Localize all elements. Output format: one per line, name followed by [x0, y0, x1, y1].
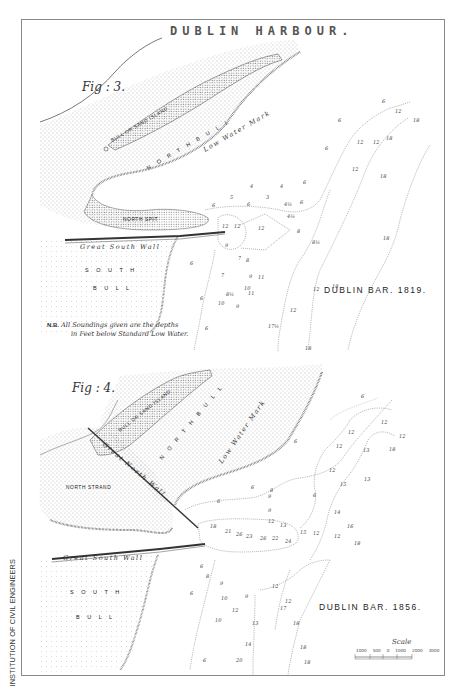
svg-text:10: 10 — [215, 617, 222, 623]
svg-text:20: 20 — [235, 657, 243, 663]
scale-title: Scale — [392, 638, 411, 646]
svg-text:8½: 8½ — [226, 291, 234, 297]
note-line-1: All Soundings given are the depths — [61, 321, 178, 329]
scale-tick: 2000 — [412, 648, 423, 653]
svg-text:17½: 17½ — [268, 323, 279, 329]
svg-text:13: 13 — [363, 447, 369, 453]
svg-text:12: 12 — [336, 443, 342, 449]
svg-text:11: 11 — [258, 274, 264, 280]
svg-text:18: 18 — [380, 173, 386, 179]
svg-text:18: 18 — [386, 135, 392, 141]
svg-text:12: 12 — [373, 139, 379, 145]
svg-text:6: 6 — [361, 393, 365, 399]
svg-text:12: 12 — [357, 139, 363, 145]
svg-text:18: 18 — [383, 235, 389, 241]
svg-text:6: 6 — [190, 260, 194, 266]
svg-text:12: 12 — [348, 429, 354, 435]
svg-text:15: 15 — [340, 481, 346, 487]
image-credit: INSTITUTION OF CIVIL ENGINEERS — [8, 547, 17, 687]
svg-text:6: 6 — [382, 98, 386, 104]
scale-tick: 0 — [387, 648, 390, 653]
label-south: S O U T H — [85, 267, 137, 273]
svg-text:6: 6 — [205, 325, 209, 331]
label-great-south-wall: Great South Wall — [80, 243, 160, 251]
svg-text:9: 9 — [245, 593, 249, 599]
svg-text:6: 6 — [247, 201, 251, 207]
svg-text:10: 10 — [221, 595, 228, 601]
label-bull-1856: B U L L — [76, 614, 115, 620]
page-title: DUBLIN HARBOUR. — [170, 24, 410, 38]
svg-text:12: 12 — [234, 223, 240, 229]
label-south-1856: S O U T H — [70, 589, 122, 595]
svg-text:6: 6 — [300, 199, 304, 205]
svg-text:11: 11 — [248, 290, 254, 296]
svg-text:7: 7 — [221, 272, 225, 278]
scale-tick: 500 — [373, 648, 381, 653]
svg-text:9: 9 — [220, 580, 224, 586]
svg-text:12: 12 — [334, 533, 340, 539]
note-line-2: in Feet below Standard Low Water. — [47, 330, 188, 338]
figure-4-label: Fig : 4. — [72, 381, 115, 395]
svg-text:4½: 4½ — [283, 201, 292, 207]
svg-text:6: 6 — [190, 590, 194, 596]
svg-text:12: 12 — [399, 433, 405, 439]
svg-text:18: 18 — [305, 345, 311, 351]
svg-text:4½: 4½ — [286, 213, 295, 219]
svg-text:6: 6 — [251, 484, 255, 490]
svg-text:6: 6 — [294, 438, 298, 444]
svg-text:6: 6 — [325, 145, 329, 151]
svg-text:18: 18 — [389, 446, 395, 452]
label-great-south-wall-1856: Great South Wall — [63, 554, 143, 562]
svg-text:5: 5 — [230, 194, 233, 200]
svg-text:6: 6 — [203, 657, 207, 663]
svg-text:12: 12 — [285, 598, 291, 604]
figure-4-map: BULL OR SAND ISLAND N O R T H B U L L Lo… — [39, 364, 405, 675]
svg-text:12: 12 — [381, 419, 387, 425]
svg-text:14: 14 — [245, 641, 251, 647]
svg-text:9: 9 — [225, 242, 229, 248]
svg-text:8½: 8½ — [312, 239, 320, 245]
dublin-bar-1856-title: DUBLIN BAR. 1856. — [319, 602, 422, 612]
svg-text:18: 18 — [304, 659, 310, 665]
label-north-strand: NORTH STRAND — [66, 485, 111, 490]
scale-tick: 3000 — [429, 648, 440, 653]
label-bull: B U L L — [93, 285, 132, 291]
svg-text:9: 9 — [236, 303, 240, 309]
scale-ticks: 10005000100020003000 — [356, 648, 445, 653]
svg-text:4: 4 — [279, 183, 283, 189]
svg-text:13: 13 — [252, 620, 258, 626]
scale-bar — [355, 654, 412, 659]
svg-text:14: 14 — [334, 509, 340, 515]
soundings-note: N.B. All Soundings given are the depths … — [47, 321, 188, 339]
svg-text:17: 17 — [280, 605, 287, 611]
svg-text:6: 6 — [200, 295, 204, 301]
svg-text:9: 9 — [268, 493, 272, 499]
svg-text:12: 12 — [272, 583, 278, 589]
svg-text:13: 13 — [280, 522, 286, 528]
svg-text:9: 9 — [249, 273, 253, 279]
svg-text:12: 12 — [313, 286, 319, 292]
svg-text:9: 9 — [268, 507, 272, 513]
svg-text:15: 15 — [300, 529, 306, 535]
svg-text:7: 7 — [238, 255, 242, 261]
svg-text:8: 8 — [246, 257, 249, 263]
svg-text:12: 12 — [232, 607, 238, 613]
svg-text:18: 18 — [413, 117, 419, 123]
svg-text:6: 6 — [303, 179, 307, 185]
svg-text:16: 16 — [347, 523, 354, 529]
svg-text:24: 24 — [284, 538, 291, 544]
svg-text:6: 6 — [313, 492, 317, 498]
svg-text:18: 18 — [354, 540, 360, 546]
svg-text:18: 18 — [210, 523, 216, 529]
svg-text:13: 13 — [364, 476, 370, 482]
svg-text:6: 6 — [217, 498, 221, 504]
harbour-map-drawing: BULL OR SAND ISLAND N O R T H B U L L Lo… — [0, 0, 464, 698]
svg-text:23: 23 — [245, 533, 252, 539]
svg-text:12: 12 — [258, 225, 264, 231]
svg-text:3: 3 — [266, 194, 269, 200]
note-prefix: N.B. — [47, 322, 59, 328]
svg-text:26: 26 — [235, 531, 243, 537]
label-north-spit: NORTH SPIT — [123, 217, 158, 222]
svg-text:12: 12 — [222, 223, 228, 229]
svg-text:4: 4 — [249, 183, 253, 189]
